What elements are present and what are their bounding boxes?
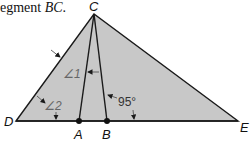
- angle95-label: 95°: [118, 95, 136, 109]
- label-a: A: [73, 127, 83, 141]
- label-c: C: [89, 0, 99, 14]
- point-a: [76, 118, 82, 124]
- angle1-arrow-left: [51, 50, 60, 57]
- label-d: D: [4, 114, 13, 129]
- label-b: B: [102, 127, 111, 141]
- angle2-label: ∠2: [44, 99, 62, 113]
- angle1-label: ∠1: [63, 67, 81, 81]
- point-b: [104, 118, 110, 124]
- label-e: E: [240, 120, 249, 135]
- geometry-figure: ∠1 ∠2 95° C D E A B: [0, 0, 252, 141]
